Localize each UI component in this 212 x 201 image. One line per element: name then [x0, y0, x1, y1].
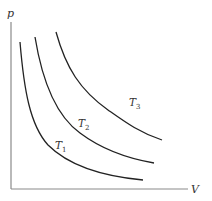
- isotherm-t1-curve: [20, 42, 143, 180]
- x-axis-label: V: [191, 183, 200, 196]
- isotherm-t2-label: T2: [78, 117, 89, 132]
- isotherm-t1-label: T1: [55, 139, 66, 154]
- isotherm-t3-curve: [56, 32, 162, 140]
- y-axis-label: p: [7, 7, 14, 20]
- isotherm-t3-label: T3: [129, 96, 140, 111]
- pv-diagram: p V T1 T2 T3: [0, 0, 212, 201]
